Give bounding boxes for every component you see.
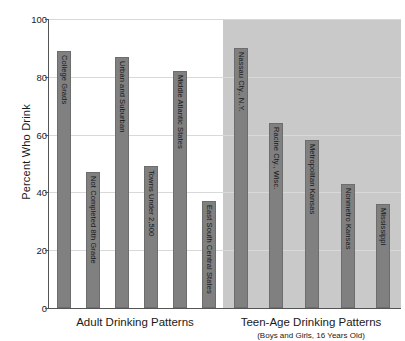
bar[interactable]: Not Completed 8th Grade <box>86 172 100 308</box>
y-tick-label: 60 <box>7 131 47 141</box>
y-tick-label: 80 <box>7 73 47 83</box>
bar[interactable]: Mississippi <box>376 204 390 308</box>
group-caption-adult: Adult Drinking Patterns <box>48 316 222 328</box>
y-tick-mark <box>45 77 49 78</box>
bar-label: Urban and Suburban <box>117 61 126 132</box>
bar-label: East South Central States <box>204 205 213 294</box>
y-tick-mark <box>45 250 49 251</box>
bar[interactable]: Towns Under 2,500 <box>144 166 158 308</box>
bar[interactable]: Racine Cty., Wisc. <box>269 123 283 308</box>
bar[interactable]: Middle Atlantic States <box>173 71 187 308</box>
bar-label: Middle Atlantic States <box>175 75 184 149</box>
chart-figure: Percent Who Drink 020406080100 College G… <box>0 0 405 341</box>
y-tick-mark <box>45 308 49 309</box>
y-tick-mark <box>45 19 49 20</box>
group-caption-teen: Teen-Age Drinking Patterns <box>222 316 400 328</box>
bar[interactable]: East South Central States <box>202 201 216 308</box>
group-subcaption-teen: (Boys and Girls, 16 Years Old) <box>222 331 400 340</box>
bar[interactable]: Nassau Cty., N.Y. <box>234 48 248 308</box>
bar-label: College Grads <box>59 55 68 104</box>
bar-label: Metropolitan Kansas <box>308 144 317 214</box>
bar-label: Nassau Cty., N.Y. <box>236 52 245 112</box>
bar-label: Not Completed 8th Grade <box>88 176 97 264</box>
y-tick-label: 0 <box>7 304 47 314</box>
bar-label: Racine Cty., Wisc. <box>272 127 281 190</box>
bar[interactable]: Metropolitan Kansas <box>305 140 319 308</box>
bar[interactable]: Urban and Suburban <box>115 57 129 308</box>
y-tick-label: 40 <box>7 188 47 198</box>
y-axis-title: Percent Who Drink <box>20 62 32 242</box>
bar[interactable]: Nonmetro Kansas <box>341 184 355 308</box>
gridline <box>49 77 401 78</box>
bar-label: Towns Under 2,500 <box>146 170 155 236</box>
gridline <box>49 135 401 136</box>
bar-label: Mississippi <box>379 208 388 245</box>
plot-area: 020406080100 College GradsNot Completed … <box>48 19 401 309</box>
y-tick-mark <box>45 135 49 136</box>
bar-label: Nonmetro Kansas <box>343 188 352 250</box>
bar[interactable]: College Grads <box>57 51 71 308</box>
y-tick-label: 100 <box>7 15 47 25</box>
gridline <box>49 19 401 20</box>
y-tick-label: 20 <box>7 246 47 256</box>
y-tick-mark <box>45 192 49 193</box>
